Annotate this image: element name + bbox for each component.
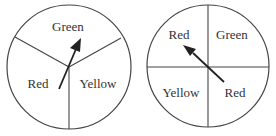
spinner-1-label-red: Red: [28, 76, 49, 91]
spinner-2-label-yellow: Yellow: [163, 85, 201, 100]
spinner-1-divider-left: [15, 37, 69, 67]
spinner-1: Green Red Yellow: [7, 5, 131, 129]
spinner-2-label-red-top: Red: [169, 27, 190, 42]
spinner-2-label-green: Green: [216, 27, 248, 42]
spinner-2-arrow-icon: [183, 45, 224, 82]
spinners-diagram: Green Red Yellow Red Green Yellow Red: [0, 0, 276, 136]
spinner-2: Red Green Yellow Red: [147, 5, 269, 127]
spinner-1-label-green: Green: [52, 19, 84, 34]
spinner-2-label-red-bottom: Red: [225, 85, 246, 100]
spinner-1-label-yellow: Yellow: [80, 76, 118, 91]
